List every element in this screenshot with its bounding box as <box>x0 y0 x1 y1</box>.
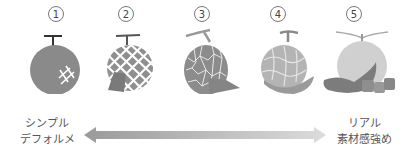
number-badge-3: 3 <box>194 6 210 22</box>
melon-semi-real-icon <box>254 28 320 94</box>
scale-right-label: リアル 素材感強め <box>326 116 402 148</box>
double-arrow-icon <box>84 127 326 143</box>
melon-net-icon <box>180 28 246 94</box>
melon-real-icon <box>318 28 406 98</box>
number-badge-2: 2 <box>118 6 134 22</box>
number-badge-1: 1 <box>48 6 64 22</box>
melon-simple-icon <box>28 28 84 94</box>
number-badge-5: 5 <box>346 6 362 22</box>
left-label-line-2: デフォルメ <box>12 132 82 148</box>
right-label-line-2: 素材感強め <box>326 132 402 148</box>
scale-left-label: シンプル デフォルメ <box>12 116 82 148</box>
right-label-line-1: リアル <box>326 116 402 132</box>
left-label-line-1: シンプル <box>12 116 82 132</box>
melon-grid-icon <box>100 28 160 94</box>
number-badge-4: 4 <box>270 6 286 22</box>
